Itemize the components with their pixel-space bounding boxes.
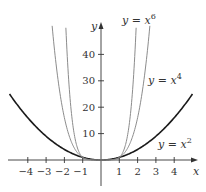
x-tick-label: −4	[18, 166, 33, 177]
x-tick-label: −1	[73, 166, 88, 177]
x-axis-label: x	[193, 165, 200, 178]
y-axis-arrow-icon	[99, 22, 104, 29]
plot-area: −4−3−2−1123410203040xy y = x2y = x4y = x…	[0, 0, 206, 192]
x-tick-label: −3	[37, 166, 52, 177]
x-tick-label: 4	[171, 166, 177, 177]
x-tick-label: 3	[153, 166, 159, 177]
curve-label-x2: y = x2	[157, 136, 192, 151]
y-axis-label: y	[90, 20, 98, 33]
y-tick-label: 30	[82, 75, 95, 86]
x-axis-arrow-icon	[191, 158, 198, 163]
curve-label-x4: y = x4	[147, 72, 182, 87]
x-tick-label: 1	[116, 166, 122, 177]
y-tick-label: 10	[82, 128, 95, 139]
y-tick-label: 20	[82, 102, 95, 113]
x-tick-label: −2	[55, 166, 70, 177]
x-tick-label: 2	[134, 166, 140, 177]
curve-labels: y = x2y = x4y = x6	[121, 12, 192, 151]
axes: −4−3−2−1123410203040xy	[8, 20, 200, 186]
y-tick-label: 40	[82, 49, 95, 60]
curve-label-x6: y = x6	[121, 12, 156, 27]
power-functions-chart: −4−3−2−1123410203040xy y = x2y = x4y = x…	[0, 0, 206, 192]
